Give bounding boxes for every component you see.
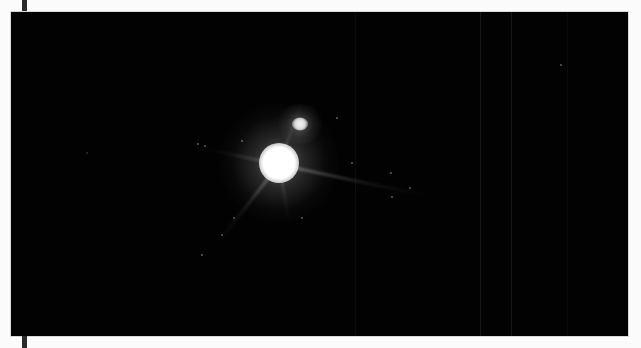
column-streak bbox=[511, 12, 512, 336]
noise-speck bbox=[241, 140, 243, 142]
page bbox=[0, 0, 641, 348]
noise-speck bbox=[336, 117, 338, 119]
noise-speck bbox=[201, 254, 203, 256]
noise-speck bbox=[204, 145, 206, 147]
noise-speck bbox=[390, 172, 392, 174]
noise-speck bbox=[560, 64, 562, 66]
noise-speck bbox=[233, 217, 235, 219]
noise-speck bbox=[86, 152, 88, 154]
noise-speck bbox=[221, 234, 223, 236]
column-streak bbox=[567, 12, 568, 336]
noise-speck bbox=[351, 162, 353, 164]
noise-speck bbox=[301, 217, 303, 219]
column-streak bbox=[355, 12, 356, 336]
bottom-divider-bar bbox=[22, 336, 27, 348]
top-divider-bar bbox=[22, 0, 27, 12]
star-photo bbox=[11, 12, 628, 336]
noise-speck bbox=[409, 187, 411, 189]
noise-speck bbox=[391, 196, 393, 198]
noise-speck bbox=[197, 143, 199, 145]
companion-star bbox=[292, 118, 308, 131]
column-streak bbox=[480, 12, 481, 336]
primary-star bbox=[259, 143, 299, 183]
